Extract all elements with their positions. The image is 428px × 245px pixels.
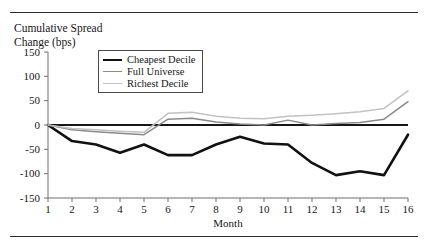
chart-svg: 150100500-50-100-150 1234567891011121314… <box>0 0 428 245</box>
legend-item: Cheapest Decile <box>103 54 196 66</box>
legend-swatch-full-universe <box>103 71 122 72</box>
legend-label-full-universe: Full Universe <box>127 66 184 78</box>
y-tick-label: -50 <box>25 143 40 155</box>
series-line-richest-decile <box>48 91 408 132</box>
legend-item: Full Universe <box>103 66 196 78</box>
y-tick-label: 50 <box>29 94 41 106</box>
x-tick-label: 2 <box>69 203 75 215</box>
plot-area: 150100500-50-100-150 1234567891011121314… <box>0 0 428 245</box>
x-tick-label: 6 <box>165 203 171 215</box>
x-tick-label: 3 <box>93 203 99 215</box>
x-tick-label: 8 <box>213 203 219 215</box>
data-series-group <box>48 91 408 175</box>
chart-legend: Cheapest Decile Full Universe Richest De… <box>98 50 203 93</box>
x-tick-mark-group <box>48 198 408 202</box>
y-tick-label-group: 150100500-50-100-150 <box>20 46 41 204</box>
x-tick-label: 1 <box>45 203 51 215</box>
x-tick-label: 15 <box>379 203 391 215</box>
y-tick-label: -100 <box>20 167 41 179</box>
x-tick-label: 14 <box>355 203 367 215</box>
x-axis-title: Month <box>213 217 243 229</box>
legend-label-cheapest-decile: Cheapest Decile <box>127 54 196 66</box>
x-tick-label: 13 <box>331 203 343 215</box>
y-tick-label: -150 <box>20 192 41 204</box>
legend-label-richest-decile: Richest Decile <box>127 78 189 90</box>
legend-item: Richest Decile <box>103 78 196 90</box>
x-tick-label: 7 <box>189 203 195 215</box>
legend-swatch-cheapest-decile <box>103 59 122 61</box>
x-tick-label: 5 <box>141 203 147 215</box>
y-tick-label: 0 <box>35 119 41 131</box>
x-tick-label-group: 12345678910111213141516 <box>45 203 414 215</box>
y-tick-label: 100 <box>24 70 41 82</box>
x-tick-label: 9 <box>237 203 243 215</box>
x-tick-label: 4 <box>117 203 123 215</box>
figure: Cumulative Spread Change (bps) 150100500… <box>0 0 428 245</box>
legend-swatch-richest-decile <box>103 83 122 84</box>
x-tick-label: 11 <box>283 203 294 215</box>
x-tick-label: 10 <box>259 203 271 215</box>
x-tick-label: 16 <box>403 203 415 215</box>
y-tick-label: 150 <box>24 46 41 58</box>
x-tick-label: 12 <box>307 203 318 215</box>
